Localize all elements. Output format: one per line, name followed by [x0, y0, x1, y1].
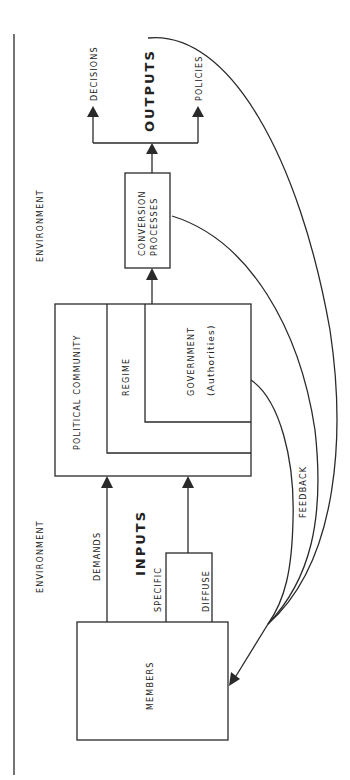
- support-arrowhead-icon: [182, 476, 194, 488]
- members-label: MEMBERS: [146, 662, 155, 710]
- decisions-arrowhead-icon: [87, 106, 99, 117]
- political-community-label: POLITICAL COMMUNITY: [73, 334, 82, 450]
- policies-label: POLICIES: [195, 55, 204, 101]
- political-community-box: [55, 304, 251, 476]
- conversion-label-line1: CONVERSION: [138, 190, 147, 256]
- outputs-label: OUTPUTS: [142, 49, 157, 132]
- decisions-label: DECISIONS: [90, 46, 99, 101]
- conversion-label-line2: PROCESSES: [150, 198, 159, 256]
- policies-arrowhead-icon: [192, 106, 204, 117]
- specific-label: SPECIFIC: [154, 567, 163, 612]
- feedback-merged-line: [236, 624, 268, 676]
- environment-label-top: ENVIRONMENT: [36, 189, 45, 262]
- outputs-arrowhead-icon: [146, 143, 158, 154]
- regime-label: REGIME: [122, 358, 131, 396]
- conversion-processes-box: [125, 173, 170, 268]
- feedback-curve-government: [251, 380, 293, 624]
- government-label-line2: (Authorities): [206, 324, 216, 396]
- environment-label-bottom: ENVIRONMENT: [36, 520, 45, 593]
- inputs-label: INPUTS: [133, 510, 148, 576]
- diffuse-label: DIFFUSE: [202, 570, 211, 612]
- demands-label: DEMANDS: [93, 532, 102, 581]
- demands-arrowhead-icon: [101, 476, 113, 488]
- systems-diagram: ENVIRONMENT ENVIRONMENT DECISIONS POLICI…: [0, 0, 350, 780]
- conversion-arrowhead-icon: [146, 268, 158, 280]
- feedback-arrowhead-icon: [229, 672, 240, 686]
- government-label-line1: GOVERNMENT: [187, 327, 196, 396]
- feedback-label: FEEDBACK: [299, 466, 308, 518]
